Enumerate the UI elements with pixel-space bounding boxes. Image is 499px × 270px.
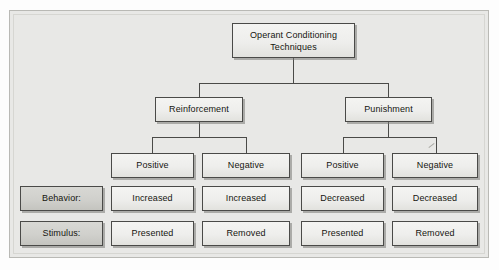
connector-to-negative-reinforcement <box>246 137 247 153</box>
node-punishment-label: Punishment <box>364 104 413 115</box>
connector-to-positive-reinforcement <box>152 137 153 153</box>
node-valence-col1-label: Positive <box>136 160 168 171</box>
connector-punishment-stem <box>388 122 389 137</box>
node-stimulus-col2-label: Removed <box>226 228 265 239</box>
connector-to-punishment <box>388 83 389 97</box>
node-valence-col4[interactable]: Negative <box>392 153 478 178</box>
node-behavior-col1[interactable]: Increased <box>111 186 194 211</box>
node-valence-col3[interactable]: Positive <box>301 153 384 178</box>
connector-to-negative-punishment <box>436 137 437 153</box>
connector-root-bar <box>199 83 389 84</box>
connector-punishment-bar <box>343 137 437 138</box>
node-behavior-col3-label: Decreased <box>320 193 364 204</box>
row-label-stimulus-text: Stimulus: <box>43 228 81 239</box>
node-behavior-col3[interactable]: Decreased <box>301 186 384 211</box>
node-valence-col4-label: Negative <box>417 160 453 171</box>
connector-root-stem <box>293 58 294 83</box>
node-stimulus-col2[interactable]: Removed <box>202 221 290 246</box>
node-reinforcement[interactable]: Reinforcement <box>155 97 243 122</box>
node-root-operant-conditioning[interactable]: Operant Conditioning Techniques <box>232 23 355 58</box>
node-stimulus-col1-label: Presented <box>132 228 174 239</box>
node-reinforcement-label: Reinforcement <box>169 104 229 115</box>
row-label-behavior-text: Behavior: <box>42 193 81 204</box>
node-stimulus-col3[interactable]: Presented <box>301 221 384 246</box>
node-punishment[interactable]: Punishment <box>345 97 432 122</box>
operant-conditioning-diagram: Operant Conditioning Techniques Reinforc… <box>0 0 499 270</box>
node-root-label: Operant Conditioning Techniques <box>237 29 350 53</box>
node-stimulus-col3-label: Presented <box>322 228 364 239</box>
node-stimulus-col1[interactable]: Presented <box>111 221 194 246</box>
node-valence-col2[interactable]: Negative <box>202 153 290 178</box>
row-label-stimulus: Stimulus: <box>20 221 103 246</box>
node-stimulus-col4[interactable]: Removed <box>392 221 478 246</box>
node-valence-col1[interactable]: Positive <box>111 153 194 178</box>
node-behavior-col2[interactable]: Increased <box>202 186 290 211</box>
node-valence-col2-label: Negative <box>228 160 264 171</box>
node-behavior-col2-label: Increased <box>226 193 266 204</box>
node-valence-col3-label: Positive <box>326 160 358 171</box>
node-behavior-col4-label: Decreased <box>413 193 457 204</box>
connector-to-positive-punishment <box>343 137 344 153</box>
row-label-behavior: Behavior: <box>20 186 103 211</box>
connector-reinforcement-bar <box>152 137 247 138</box>
connector-to-reinforcement <box>199 83 200 97</box>
node-behavior-col4[interactable]: Decreased <box>392 186 478 211</box>
connector-reinforcement-stem <box>199 122 200 137</box>
node-stimulus-col4-label: Removed <box>415 228 454 239</box>
node-behavior-col1-label: Increased <box>132 193 172 204</box>
